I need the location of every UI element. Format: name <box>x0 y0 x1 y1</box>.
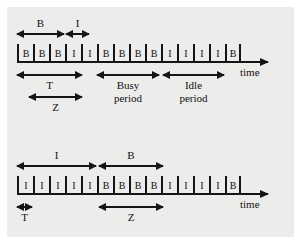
slot-cell: B <box>225 176 241 195</box>
top-arrow-i-label: I <box>66 17 89 29</box>
busy-period-line1: Busy <box>97 79 159 92</box>
top-time-axis-label: time <box>240 66 260 78</box>
slot-cell: B <box>145 44 161 63</box>
slot-label: B <box>151 49 158 59</box>
slot-cell: B <box>113 44 129 63</box>
slot-label: I <box>184 49 187 59</box>
slot-label: I <box>72 181 75 191</box>
slot-label: I <box>40 181 43 191</box>
slot-cell: I <box>177 44 193 63</box>
slot-cell: B <box>225 44 241 63</box>
slot-label: I <box>184 181 187 191</box>
top-arrow-i <box>66 33 89 35</box>
top-arrow-b <box>17 33 64 35</box>
bottom-arrow-i-label: I <box>17 149 96 161</box>
slot-label: I <box>168 49 171 59</box>
slot-label: B <box>230 49 237 59</box>
slot-cell: I <box>49 176 65 195</box>
slot-cell: I <box>81 44 97 63</box>
slot-label: I <box>88 49 91 59</box>
bottom-arrow-z <box>99 206 163 208</box>
idle-period-line2: period <box>163 92 224 105</box>
slot-cell: I <box>209 44 225 63</box>
bottom-arrow-b <box>99 165 163 167</box>
slot-label: I <box>168 181 171 191</box>
slot-cell: B <box>17 44 33 63</box>
slot-cell: B <box>145 176 161 195</box>
slot-label: B <box>119 181 126 191</box>
bottom-arrow-z-label: Z <box>99 211 163 223</box>
slot-cell: B <box>129 44 145 63</box>
slot-label: I <box>200 49 203 59</box>
slot-label: I <box>216 49 219 59</box>
slot-label: I <box>216 181 219 191</box>
slot-label: B <box>23 49 30 59</box>
slot-cell: I <box>65 44 81 63</box>
slot-cell: I <box>17 176 33 195</box>
slot-label: B <box>55 49 62 59</box>
bottom-arrow-t <box>17 206 32 208</box>
top-arrow-busy-period-label: Busy period <box>97 79 159 105</box>
slot-cell: B <box>33 44 49 63</box>
slot-label: B <box>103 49 110 59</box>
top-arrow-b-label: B <box>17 17 64 29</box>
bottom-arrow-i <box>17 165 96 167</box>
busy-period-line2: period <box>97 92 159 105</box>
slot-cell: I <box>161 44 177 63</box>
slot-cell: I <box>209 176 225 195</box>
slot-cell: B <box>49 44 65 63</box>
slot-cell: B <box>129 176 145 195</box>
slot-label: B <box>119 49 126 59</box>
top-arrow-z-label: Z <box>29 101 82 113</box>
slot-cell: I <box>177 176 193 195</box>
bottom-slot-row: I I I I I B B B B I I I I B <box>17 176 241 195</box>
slot-cell: I <box>161 176 177 195</box>
top-arrow-idle-period-label: Idle period <box>163 79 224 105</box>
bottom-arrow-b-label: B <box>99 149 163 161</box>
bottom-time-axis-label: time <box>240 198 260 210</box>
diagram-canvas: B I time B B B I I B B B B I I I I B T Z… <box>0 0 301 248</box>
slot-cell: I <box>193 176 209 195</box>
bottom-arrow-t-label: T <box>10 211 39 223</box>
top-arrow-idle-period <box>163 74 224 76</box>
slot-label: I <box>24 181 27 191</box>
top-arrow-t <box>17 74 82 76</box>
slot-cell: B <box>113 176 129 195</box>
slot-label: B <box>135 49 142 59</box>
slot-label: I <box>72 49 75 59</box>
top-arrow-z <box>29 96 82 98</box>
slot-cell: I <box>81 176 97 195</box>
slot-cell: I <box>33 176 49 195</box>
slot-label: B <box>103 181 110 191</box>
slot-cell: B <box>97 176 113 195</box>
slot-label: B <box>135 181 142 191</box>
slot-cell: I <box>193 44 209 63</box>
slot-label: B <box>151 181 158 191</box>
top-arrow-busy-period <box>97 74 159 76</box>
top-arrow-t-label: T <box>17 79 82 91</box>
slot-label: I <box>200 181 203 191</box>
idle-period-line1: Idle <box>163 79 224 92</box>
slot-cell: B <box>97 44 113 63</box>
slot-label: B <box>230 181 237 191</box>
top-slot-row: B B B I I B B B B I I I I B <box>17 44 241 63</box>
slot-label: B <box>39 49 46 59</box>
slot-label: I <box>88 181 91 191</box>
slot-label: I <box>56 181 59 191</box>
slot-cell: I <box>65 176 81 195</box>
